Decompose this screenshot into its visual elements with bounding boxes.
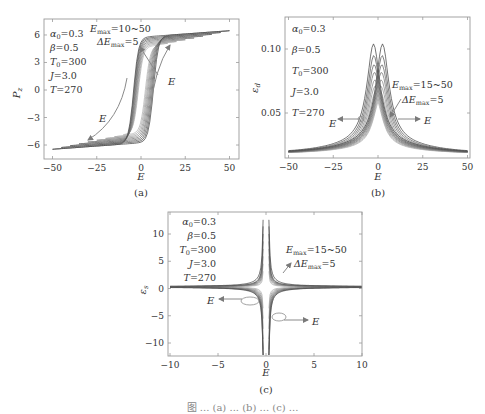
y-tick-label: 10 [153,229,165,239]
b-y-axis-label: εd [249,83,262,93]
x-tick-label: −50 [279,162,298,172]
math-label: α0=0.3 [182,216,216,229]
susceptibility-curve-lower [170,288,263,356]
math-label: T=270 [292,107,324,118]
math-label: α0=0.3 [292,23,326,36]
math-label: J=3.0 [48,70,77,81]
x-tick-label: −25 [87,163,106,173]
a-arrow-label-down: E [98,113,107,124]
x-tick-label: 5 [311,360,317,370]
susceptibility-curve-upper [269,226,362,286]
y-tick-label: −10 [145,338,164,348]
b-parameters-legend: α0=0.3β=0.5T0=300J=3.0T=270 [290,23,329,118]
math-label: T0=300 [292,65,329,78]
susceptibility-curve-lower [170,287,263,339]
math-label: J=3.0 [290,86,319,97]
math-label: β=0.5 [49,42,79,53]
susceptibility-curve-lower [170,287,263,349]
y-tick-label: 5 [158,256,164,266]
math-label: T0=300 [50,56,87,69]
math-label: Emax=15~50 [285,244,347,257]
math-label: β=0.5 [291,44,321,55]
direction-arrow [88,78,127,140]
c-parameters-legend: α0=0.3β=0.5T0=300J=3.0T=270 [179,216,216,283]
c-arrow-label-right: E [311,316,320,327]
ellipse-marker [272,313,286,321]
math-label: T=270 [50,84,82,95]
b-x-axis-label: E [373,171,382,182]
susceptibility-curve-lower [170,288,263,356]
x-tick-label: −5 [211,360,225,370]
math-label: α0=0.3 [50,28,84,41]
susceptibility-curve-lower [170,287,263,329]
c-arrow-label-left: E [206,295,215,306]
ellipse-marker [241,297,259,305]
figure-caption-partial: 图 ... (a) ... (b) ... (c) ... [0,399,485,414]
y-tick-label: 0.10 [261,44,281,54]
x-tick-label: 50 [224,163,236,173]
y-tick-label: 0.05 [261,108,281,118]
y-tick-label: 6 [34,30,40,40]
y-tick-label: 0 [158,284,164,294]
math-label: ΔEmax=5 [401,94,444,107]
math-label: Emax=15~50 [391,79,453,92]
a-panel-label: (a) [134,187,148,198]
susceptibility-curve-lower [269,287,362,339]
x-tick-label: −25 [324,162,343,172]
y-tick-label: 3 [34,57,40,67]
panel-a-hysteresis-chart: −50−2502550630−3−6 E Pz (a) α0=0.3β=0.5T… [11,19,239,198]
b-panel-label: (b) [371,187,385,198]
math-label: Emax=10~50 [89,23,151,36]
x-tick-label: −10 [161,360,180,370]
c-panel-label: (c) [259,384,273,395]
x-tick-label: 25 [180,163,192,173]
y-tick-label: −3 [27,113,41,123]
math-label: T0=300 [179,244,216,257]
y-tick-label: 0 [34,85,40,95]
susceptibility-curve-upper [269,256,362,286]
x-tick-label: 50 [462,162,474,172]
b-arrow-label-left: E [328,118,337,129]
math-label: J=3.0 [187,258,216,269]
math-label: β=0.5 [186,230,216,241]
susceptibility-curve-upper [269,234,362,287]
a-x-axis-label: E [136,171,145,182]
b-arrow-label-right: E [423,115,432,126]
x-tick-label: 10 [356,360,368,370]
c-x-axis-label: E [261,367,270,378]
x-tick-label: 25 [417,162,429,172]
a-y-axis-label: Pz [11,87,24,99]
x-tick-label: −50 [43,163,62,173]
math-label: ΔEmax=5 [96,36,139,49]
susceptibility-curve-lower [170,287,263,319]
a-arrow-label-up: E [167,76,176,87]
susceptibility-curve-lower [170,287,263,355]
a-parameters-legend: α0=0.3β=0.5T0=300J=3.0T=270 [48,28,87,95]
direction-arrow [283,263,291,273]
c-y-axis-label: εs [137,285,150,294]
panel-b-dielectric-chart: −50−25025500.100.05 E εd (b) α0=0.3β=0.5… [249,17,473,198]
y-tick-label: −5 [151,311,165,321]
panel-c-susceptibility-chart: −10−505101050−5−10 E εs (c) α0=0.3β=0.5T… [137,212,368,395]
math-label: T=270 [184,272,216,283]
math-label: ΔEmax=5 [293,258,336,271]
y-tick-label: −6 [27,140,41,150]
